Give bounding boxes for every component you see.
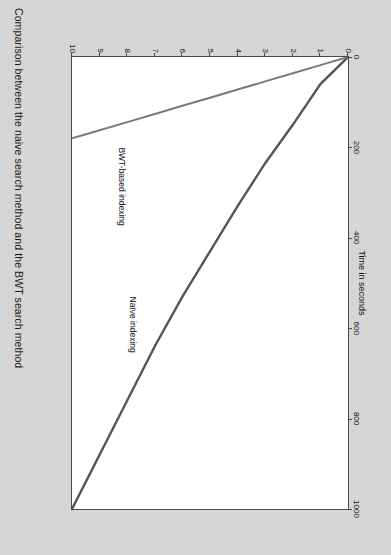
- y-tick-label: 5: [206, 49, 215, 53]
- y-tick-mark: [292, 53, 293, 57]
- x-tick-label: 400: [352, 231, 361, 244]
- x-tick-mark: [348, 57, 352, 58]
- y-tick-mark: [319, 53, 320, 57]
- series-line-naive: [72, 57, 348, 509]
- series-line-bwt: [72, 57, 348, 138]
- y-tick-mark: [347, 53, 348, 57]
- y-tick-label: 3: [261, 49, 270, 53]
- plot-lines: [72, 57, 348, 509]
- x-tick-label: 800: [352, 412, 361, 425]
- x-tick-label: 200: [352, 141, 361, 154]
- figure-caption: Comparison between the naive search meth…: [13, 8, 25, 548]
- x-tick-mark: [348, 419, 352, 420]
- y-tick-mark: [181, 53, 182, 57]
- x-tick-mark: [348, 238, 352, 239]
- y-tick-mark: [99, 53, 100, 57]
- y-tick-mark: [126, 53, 127, 57]
- plot-area: 02004006008001000 012345678910 BWT-based…: [71, 56, 349, 510]
- x-tick-mark: [348, 509, 352, 510]
- y-tick-label: 1: [316, 49, 325, 53]
- rotated-page-canvas: Time in seconds # of inserts (length ~ 1…: [0, 0, 391, 555]
- y-tick-label: 8: [123, 49, 132, 53]
- y-tick-label: 4: [233, 49, 242, 53]
- y-tick-mark: [209, 53, 210, 57]
- y-tick-mark: [237, 53, 238, 57]
- y-tick-mark: [71, 53, 72, 57]
- y-tick-mark: [154, 53, 155, 57]
- series-label-bwt: BWT-based indexing: [117, 147, 127, 225]
- series-label-naive: Naïve indexing: [128, 297, 138, 353]
- y-tick-label: 0: [344, 49, 353, 53]
- x-tick-mark: [348, 147, 352, 148]
- x-tick-mark: [348, 328, 352, 329]
- y-tick-label: 10: [68, 44, 77, 53]
- y-tick-label: 7: [150, 49, 159, 53]
- y-tick-label: 9: [95, 49, 104, 53]
- x-axis-title: Time in seconds: [357, 56, 367, 510]
- x-tick-label: 1000: [352, 500, 361, 518]
- y-tick-mark: [264, 53, 265, 57]
- y-tick-label: 2: [288, 49, 297, 53]
- x-tick-label: 600: [352, 322, 361, 335]
- y-tick-label: 6: [178, 49, 187, 53]
- x-tick-label: 0: [352, 55, 361, 59]
- figure-container: Time in seconds # of inserts (length ~ 1…: [37, 22, 377, 522]
